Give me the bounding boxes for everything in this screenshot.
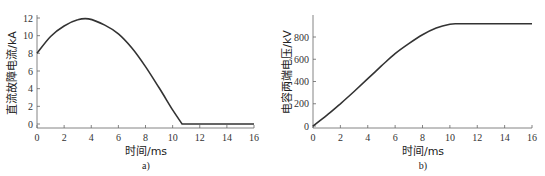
- y-tick-label: 0: [28, 119, 33, 130]
- y-tick-label: 400: [294, 76, 309, 87]
- x-tick-label: 10: [445, 132, 455, 143]
- panel-caption-b: b): [419, 160, 427, 172]
- figure: 0246810121416024681012 直流故障电流/kA 时间/ms a…: [0, 0, 545, 176]
- x-tick-label: 8: [420, 132, 425, 143]
- panel-caption-a: a): [142, 160, 150, 172]
- x-tick-label: 10: [168, 132, 178, 143]
- x-tick-label: 0: [35, 132, 40, 143]
- x-tick-label: 8: [143, 132, 148, 143]
- x-tick-label: 12: [472, 132, 482, 143]
- x-tick-label: 4: [365, 132, 370, 143]
- x-tick-label: 6: [393, 132, 398, 143]
- chart-panel-b: 02468101214160200400600800 电容两端电压/kV 时间/…: [280, 15, 537, 172]
- x-tick-label: 16: [249, 132, 259, 143]
- y-tick-label: 2: [28, 101, 33, 112]
- x-tick-label: 14: [500, 132, 510, 143]
- y-tick-label: 4: [28, 83, 33, 94]
- y-tick-label: 800: [294, 32, 309, 43]
- y-tick-label: 6: [28, 66, 33, 77]
- axes-b: 02468101214160200400600800: [294, 15, 537, 143]
- y-tick-label: 12: [23, 13, 33, 24]
- y-tick-label: 10: [23, 30, 33, 41]
- x-tick-label: 16: [527, 132, 537, 143]
- x-tick-label: 4: [89, 132, 94, 143]
- capacitor-voltage-line: [313, 24, 532, 126]
- x-tick-label: 6: [116, 132, 121, 143]
- x-tick-label: 2: [62, 132, 67, 143]
- fault-current-line: [37, 18, 254, 124]
- x-axis-title-b: 时间/ms: [402, 145, 444, 158]
- y-tick-label: 8: [28, 48, 33, 59]
- y-axis-title-b: 电容两端电压/kV: [280, 30, 294, 114]
- x-tick-label: 2: [338, 132, 343, 143]
- y-tick-label: 0: [304, 121, 309, 132]
- x-tick-label: 14: [222, 132, 232, 143]
- x-tick-label: 0: [311, 132, 316, 143]
- chart-panel-a: 0246810121416024681012 直流故障电流/kA 时间/ms a…: [5, 13, 259, 173]
- y-axis-title-a: 直流故障电流/kA: [5, 31, 19, 115]
- x-axis-title-a: 时间/ms: [125, 145, 167, 158]
- y-tick-label: 600: [294, 54, 309, 65]
- y-tick-label: 200: [294, 98, 309, 109]
- x-tick-label: 12: [195, 132, 205, 143]
